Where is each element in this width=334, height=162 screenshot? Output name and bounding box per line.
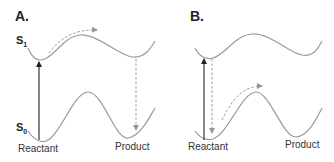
s0-label: S0 [16,121,27,135]
panel-b: B. Reactant Product [188,8,322,152]
s0-potential-curve [28,92,155,142]
product-label-b: Product [285,139,320,150]
s1-potential-curve [28,35,155,60]
s1-potential-curve-b [195,34,322,59]
panel-a-label: A. [15,8,29,24]
reactant-label: Reactant [18,143,58,154]
product-label: Product [115,141,150,152]
panel-a: A. S1 S0 Reactant Product [15,8,155,154]
s0-potential-curve-b [195,92,322,140]
s1-label: S1 [16,34,27,48]
diagram-canvas: A. S1 S0 Reactant Product B. Reactant Pr… [0,0,334,162]
panel-b-label: B. [190,8,204,24]
reactant-label-b: Reactant [188,141,228,152]
